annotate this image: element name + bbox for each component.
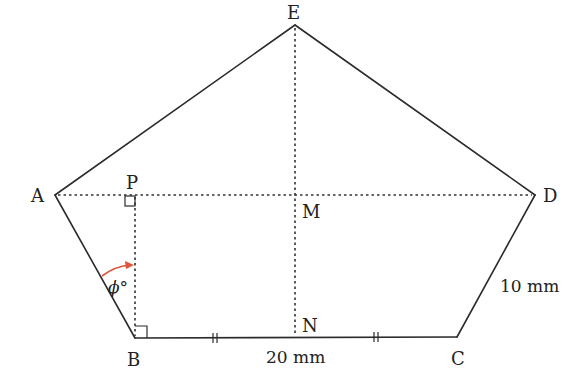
bc-length-label: 20 mm <box>266 347 325 367</box>
angle-label: ϕ° <box>108 277 128 297</box>
label-m: M <box>302 201 320 222</box>
point-labels: A B C D E P M N <box>30 2 557 370</box>
edge-de <box>295 25 535 195</box>
angle-arc <box>102 261 134 276</box>
edge-bc <box>135 337 457 338</box>
label-n: N <box>302 315 318 336</box>
cd-length-label: 10 mm <box>500 276 559 296</box>
pentagon-diagram: A B C D E P M N ϕ° 20 mm 10 mm <box>0 0 588 383</box>
right-angle-p-icon <box>125 196 135 206</box>
label-e: E <box>287 2 300 23</box>
label-a: A <box>30 185 45 206</box>
label-p: P <box>126 172 138 193</box>
measurement-labels: ϕ° 20 mm 10 mm <box>108 276 559 367</box>
right-angle-b-icon <box>135 326 147 338</box>
edge-ea <box>55 25 295 195</box>
label-b: B <box>127 349 140 370</box>
edge-cd <box>457 195 535 337</box>
label-d: D <box>543 185 557 206</box>
angle-arrowhead-icon <box>125 261 134 269</box>
label-c: C <box>451 348 465 369</box>
